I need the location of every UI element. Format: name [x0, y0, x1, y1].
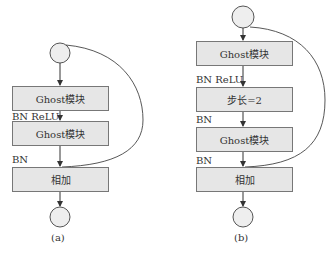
input-node-b: [232, 6, 254, 28]
ghost-module-block-a2: Ghost模块: [12, 121, 109, 146]
add-block-a: 相加: [12, 167, 109, 192]
ghost-module-block-b1: Ghost模块: [196, 41, 293, 66]
bn-label-b1: BN: [196, 115, 212, 125]
add-block-b: 相加: [196, 167, 293, 192]
bn-label-a: BN: [12, 155, 28, 165]
output-node-a: [50, 207, 70, 227]
ghost-module-block-b2: Ghost模块: [196, 127, 293, 152]
input-node-a: [50, 43, 70, 63]
bn-relu-label-b: BN ReLU: [196, 75, 243, 85]
stride-2-block-b: 步长=2: [196, 87, 293, 112]
caption-b: (b): [234, 233, 248, 243]
ghost-module-block-a1: Ghost模块: [12, 86, 109, 111]
caption-a: (a): [51, 233, 65, 243]
bn-label-b2: BN: [196, 156, 212, 166]
output-node-b: [233, 207, 253, 227]
